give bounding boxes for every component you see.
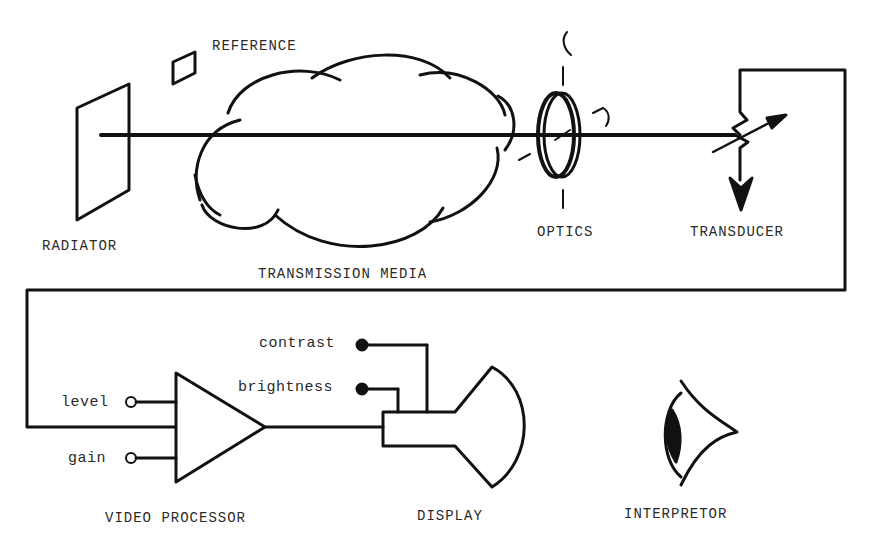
crt-display-icon — [383, 367, 524, 487]
display-label: DISPLAY — [417, 508, 483, 524]
radiator-plate-icon — [77, 84, 129, 220]
brightness-knob-icon[interactable] — [357, 384, 367, 394]
diagram-canvas: REFERENCE RADIATOR TRANSMISSION MEDIA OP… — [0, 0, 869, 544]
ground-arrow-icon — [730, 178, 752, 210]
level-control-label: level — [61, 394, 109, 411]
cloud-icon — [195, 55, 514, 246]
transmission-media-label: TRANSMISSION MEDIA — [258, 266, 427, 282]
diagram-graphics — [0, 0, 869, 544]
transducer-variable-resistor-icon — [27, 70, 845, 427]
reference-plate-icon — [173, 52, 195, 84]
brightness-control-label: brightness — [238, 379, 333, 396]
video-processor-label: VIDEO PROCESSOR — [105, 510, 246, 526]
contrast-knob-icon[interactable] — [357, 340, 367, 350]
interpretor-label: INTERPRETOR — [624, 506, 727, 522]
eye-icon — [665, 381, 737, 485]
contrast-control-label: contrast — [259, 335, 335, 352]
gain-control-label: gain — [68, 450, 106, 467]
reference-label: REFERENCE — [212, 38, 297, 54]
transducer-label: TRANSDUCER — [690, 224, 784, 240]
optics-label: OPTICS — [537, 224, 593, 240]
radiator-label: RADIATOR — [42, 238, 117, 254]
lens-icon — [519, 32, 609, 208]
